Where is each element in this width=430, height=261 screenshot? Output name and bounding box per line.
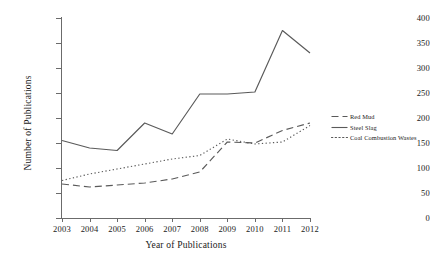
y-tick-label: 100 (384, 164, 430, 173)
x-tick (172, 218, 173, 222)
y-tick (56, 43, 61, 44)
series-line-red-mud (62, 123, 310, 187)
y-tick-label: 300 (384, 64, 430, 73)
legend-label: Red Mud (350, 113, 375, 120)
x-tick (62, 218, 63, 222)
y-tick (56, 193, 61, 194)
x-tick (145, 218, 146, 222)
y-tick-label: 250 (384, 89, 430, 98)
y-tick-label: 350 (384, 39, 430, 48)
x-tick-label: 2012 (293, 225, 327, 234)
series-line-coal-combustion-wastes (62, 126, 310, 181)
x-tick (282, 218, 283, 222)
chart-legend: Red MudSteel SlagCoal Combustion Wastes (331, 112, 429, 144)
y-tick-label: 50 (384, 189, 430, 198)
x-axis-title: Year of Publications (62, 240, 310, 250)
y-tick (56, 68, 61, 69)
y-tick (56, 93, 61, 94)
y-tick (56, 143, 61, 144)
x-tick (255, 218, 256, 222)
x-tick (227, 218, 228, 222)
legend-label: Steel Slag (350, 124, 377, 131)
legend-item: Red Mud (331, 112, 429, 121)
y-tick-label: 400 (384, 14, 430, 23)
legend-label: Coal Combustion Wastes (350, 134, 417, 141)
line-chart: 050100150200250300350400 200320042005200… (0, 0, 430, 261)
legend-swatch-dashed (331, 112, 348, 121)
y-axis-title: Number of Publications (23, 48, 33, 198)
y-tick (56, 118, 61, 119)
legend-item: Coal Combustion Wastes (331, 133, 429, 142)
x-tick (200, 218, 201, 222)
series-line-steel-slag (62, 31, 310, 151)
y-tick (56, 168, 61, 169)
y-tick-label: 0 (384, 214, 430, 223)
plot-area (62, 18, 310, 218)
x-tick (310, 218, 311, 222)
legend-swatch-dotted (331, 133, 348, 142)
x-tick (90, 218, 91, 222)
x-tick (117, 218, 118, 222)
y-tick (56, 18, 61, 19)
legend-swatch-solid (331, 123, 348, 132)
x-axis-line (61, 218, 311, 219)
legend-item: Steel Slag (331, 123, 429, 132)
series-lines (62, 18, 310, 218)
y-tick (56, 218, 61, 219)
